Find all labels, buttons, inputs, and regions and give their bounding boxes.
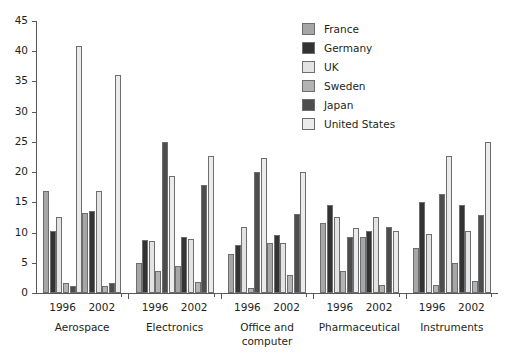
bar-japan-pharmaceutical-1996 bbox=[347, 237, 353, 293]
bar-germany-electronics-2002 bbox=[181, 237, 187, 293]
bar-united-states-pharmaceutical-1996 bbox=[353, 228, 359, 293]
legend-item-label: Japan bbox=[324, 99, 353, 111]
x-axis-year-tick bbox=[306, 293, 307, 297]
bar-germany-pharmaceutical-1996 bbox=[327, 205, 333, 293]
bar-uk-electronics-2002 bbox=[188, 239, 194, 293]
bar-uk-instruments-2002 bbox=[465, 231, 471, 293]
bar-uk-pharmaceutical-1996 bbox=[334, 217, 340, 293]
plot-area bbox=[36, 21, 498, 293]
bar-japan-aerospace-2002 bbox=[109, 283, 115, 293]
bar-united-states-electronics-2002 bbox=[208, 156, 214, 293]
y-axis-tick-label: 45 bbox=[15, 14, 28, 27]
bar-france-office-and-computer-1996 bbox=[228, 254, 234, 293]
bar-japan-instruments-1996 bbox=[439, 194, 445, 293]
legend-item-label: France bbox=[324, 23, 359, 35]
legend-swatch-united-states-icon bbox=[302, 118, 315, 130]
legend-swatch-uk-icon bbox=[302, 61, 315, 73]
bar-united-states-office-and-computer-1996 bbox=[261, 158, 267, 293]
x-axis-line bbox=[36, 293, 498, 294]
y-axis-tick: 40 bbox=[0, 51, 36, 52]
legend-item[interactable]: United States bbox=[302, 114, 395, 133]
x-axis-year-label: 1996 bbox=[234, 301, 261, 313]
bar-united-states-pharmaceutical-2002 bbox=[393, 231, 399, 293]
bar-sweden-office-and-computer-1996 bbox=[248, 288, 254, 293]
bar-sweden-office-and-computer-2002 bbox=[287, 275, 293, 293]
bar-sweden-aerospace-2002 bbox=[102, 286, 108, 293]
bar-chart: 051015202530354045 19962002Aerospace1996… bbox=[0, 0, 505, 363]
x-axis-group-separator bbox=[221, 293, 222, 299]
x-axis-year-tick bbox=[121, 293, 122, 297]
y-axis-tick: 0 bbox=[0, 293, 36, 294]
bar-france-aerospace-1996 bbox=[43, 191, 49, 293]
x-axis-year-label: 2002 bbox=[458, 301, 485, 313]
bar-japan-instruments-2002 bbox=[478, 215, 484, 293]
bar-japan-pharmaceutical-2002 bbox=[386, 227, 392, 293]
bar-united-states-office-and-computer-2002 bbox=[300, 172, 306, 293]
bar-japan-office-and-computer-1996 bbox=[254, 172, 260, 293]
y-axis-tick: 35 bbox=[0, 81, 36, 82]
bar-germany-aerospace-1996 bbox=[50, 231, 56, 293]
x-axis-year-tick bbox=[399, 293, 400, 297]
bar-japan-office-and-computer-2002 bbox=[294, 214, 300, 293]
x-axis-group-separator bbox=[128, 293, 129, 299]
x-axis-group-label: Instruments bbox=[392, 321, 505, 335]
y-axis-tick-label: 10 bbox=[15, 226, 28, 239]
x-axis-year-label: 2002 bbox=[181, 301, 208, 313]
x-axis-year-label: 1996 bbox=[49, 301, 76, 313]
y-axis-tick: 10 bbox=[0, 233, 36, 234]
legend-swatch-japan-icon bbox=[302, 99, 315, 111]
y-axis-tick-label: 5 bbox=[21, 256, 28, 269]
bar-uk-aerospace-1996 bbox=[56, 217, 62, 293]
y-axis-tick-label: 40 bbox=[15, 44, 28, 57]
bar-france-instruments-2002 bbox=[452, 263, 458, 293]
y-axis-tick: 5 bbox=[0, 263, 36, 264]
bar-germany-instruments-1996 bbox=[419, 202, 425, 293]
x-axis-year-label: 1996 bbox=[142, 301, 169, 313]
x-axis-year-label: 1996 bbox=[419, 301, 446, 313]
chart-legend: FranceGermanyUKSwedenJapanUnited States bbox=[302, 19, 395, 133]
bar-uk-office-and-computer-1996 bbox=[241, 227, 247, 293]
y-axis-tick-label: 20 bbox=[15, 165, 28, 178]
y-axis-tick-label: 25 bbox=[15, 135, 28, 148]
y-axis-tick-mark bbox=[32, 293, 36, 294]
legend-item[interactable]: UK bbox=[302, 57, 395, 76]
bar-uk-office-and-computer-2002 bbox=[280, 243, 286, 293]
legend-item-label: UK bbox=[324, 61, 339, 73]
bar-germany-aerospace-2002 bbox=[89, 211, 95, 293]
bar-sweden-instruments-2002 bbox=[472, 281, 478, 293]
legend-swatch-germany-icon bbox=[302, 42, 315, 54]
legend-item[interactable]: Germany bbox=[302, 38, 395, 57]
legend-item[interactable]: Japan bbox=[302, 95, 395, 114]
bar-uk-pharmaceutical-2002 bbox=[373, 217, 379, 293]
legend-item[interactable]: France bbox=[302, 19, 395, 38]
bar-uk-instruments-1996 bbox=[426, 234, 432, 293]
bar-germany-electronics-1996 bbox=[142, 240, 148, 293]
bar-france-pharmaceutical-1996 bbox=[320, 223, 326, 293]
bar-france-electronics-2002 bbox=[175, 266, 181, 293]
bar-sweden-aerospace-1996 bbox=[63, 283, 69, 293]
bar-france-aerospace-2002 bbox=[82, 213, 88, 293]
x-axis-year-label: 2002 bbox=[88, 301, 115, 313]
bar-united-states-aerospace-1996 bbox=[76, 46, 82, 293]
bar-united-states-electronics-1996 bbox=[169, 176, 175, 293]
bar-united-states-aerospace-2002 bbox=[115, 75, 121, 293]
bar-japan-electronics-2002 bbox=[201, 185, 207, 293]
legend-item[interactable]: Sweden bbox=[302, 76, 395, 95]
bar-france-pharmaceutical-2002 bbox=[360, 237, 366, 293]
bar-united-states-instruments-1996 bbox=[446, 156, 452, 293]
y-axis-tick: 25 bbox=[0, 142, 36, 143]
bar-sweden-pharmaceutical-1996 bbox=[340, 271, 346, 293]
bar-united-states-instruments-2002 bbox=[485, 142, 491, 293]
y-axis-tick-label: 35 bbox=[15, 74, 28, 87]
x-axis-year-label: 2002 bbox=[366, 301, 393, 313]
bar-germany-instruments-2002 bbox=[459, 205, 465, 293]
y-axis-tick: 15 bbox=[0, 202, 36, 203]
y-axis-tick: 30 bbox=[0, 112, 36, 113]
y-axis-tick-label: 0 bbox=[21, 286, 28, 299]
bar-japan-electronics-1996 bbox=[162, 142, 168, 293]
x-axis-year-tick bbox=[214, 293, 215, 297]
x-axis-group-separator bbox=[406, 293, 407, 299]
bar-germany-office-and-computer-2002 bbox=[274, 235, 280, 293]
x-axis-year-label: 2002 bbox=[273, 301, 300, 313]
x-axis-year-tick bbox=[491, 293, 492, 297]
